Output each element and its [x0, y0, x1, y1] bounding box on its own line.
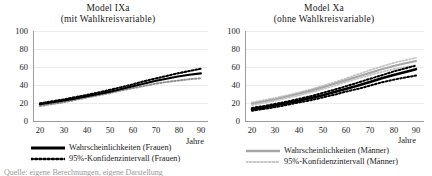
legend-item-wahrscheinlichkeiten-maenner[interactable]: Wahrscheinlichkeiten (Männer) [246, 146, 398, 156]
panel-title-right: Model Xa (ohne Wahlkreisvariable) [216, 3, 432, 25]
legend-label-konfidenzintervall-frauen: 95%-Konfidenzintervall (Frauen) [69, 154, 180, 164]
series-ci-lower-frauen [40, 78, 201, 106]
ytick-label-80-left: 80 [0, 45, 28, 54]
legend-left: Wahrscheinlichkeiten (Frauen) 95%-Konfid… [31, 143, 180, 165]
ytick-label-0-right: 0 [216, 117, 240, 126]
ytick-label-60-left: 60 [0, 63, 28, 72]
panel-model-xa: Model Xa (ohne Wahlkreisvariable) 100 80… [216, 0, 432, 176]
legend-item-konfidenzintervall-maenner[interactable]: 95%-Konfidenzintervall (Männer) [246, 157, 398, 167]
figure-two-panel-line-charts: Model IXa (mit Wahlkreisvariable) 100 80… [0, 0, 432, 176]
xtick-label-80-left: 80 [167, 126, 191, 135]
xtick-label-40-left: 40 [75, 126, 99, 135]
ytick-label-60-right: 60 [216, 63, 240, 72]
plot-area-right [245, 31, 424, 122]
ytick-label-100-right: 100 [216, 27, 240, 36]
x-axis-unit-left: Jahre [186, 137, 204, 146]
legend-right: Wahrscheinlichkeiten (Männer) 95%-Konfid… [246, 146, 398, 168]
legend-label-wahrscheinlichkeiten-frauen: Wahrscheinlichkeiten (Frauen) [69, 143, 171, 153]
legend-key-solid-grey-maenner [246, 147, 280, 155]
ytick-label-40-right: 40 [216, 81, 240, 90]
xtick-label-40-right: 40 [287, 126, 311, 135]
ytick-label-20-right: 20 [216, 99, 240, 108]
xtick-label-20-right: 20 [240, 126, 264, 135]
xtick-label-60-right: 60 [334, 126, 358, 135]
panel-title-left-line2: (mit Wahlkreisvariable) [0, 14, 216, 25]
gridlines-left [33, 32, 208, 104]
panel-title-right-line1: Model Xa [304, 3, 344, 13]
legend-key-dotted-grey-maenner [246, 158, 280, 166]
xtick-label-30-left: 30 [52, 126, 76, 135]
panel-model-ixa: Model IXa (mit Wahlkreisvariable) 100 80… [0, 0, 216, 176]
ytick-label-40-left: 40 [0, 81, 28, 90]
xtick-label-90-left: 90 [189, 126, 213, 135]
ytick-label-80-right: 80 [216, 45, 240, 54]
ytick-label-100-left: 100 [0, 27, 28, 36]
legend-item-konfidenzintervall-frauen[interactable]: 95%-Konfidenzintervall (Frauen) [31, 154, 180, 164]
plot-svg-left [33, 31, 208, 122]
ytick-label-20-left: 20 [0, 99, 28, 108]
plot-area-left [33, 31, 208, 122]
xtick-label-80-right: 80 [382, 126, 406, 135]
series-ci-upper-black [252, 66, 416, 108]
x-axis-unit-right: Jahre [398, 136, 416, 145]
legend-key-solid-black-frauen [31, 144, 65, 152]
figure-caption-partial: Quelle: eigene Berechnungen, eigene Dars… [4, 168, 428, 176]
plot-svg-right [245, 31, 424, 122]
xtick-label-70-left: 70 [144, 126, 168, 135]
legend-label-konfidenzintervall-maenner: 95%-Konfidenzintervall (Männer) [284, 157, 398, 167]
ytick-label-0-left: 0 [0, 117, 28, 126]
xtick-label-20-left: 20 [28, 126, 52, 135]
xtick-label-50-left: 50 [98, 126, 122, 135]
panel-title-left-line1: Model IXa [86, 3, 129, 13]
xtick-label-90-right: 90 [404, 126, 428, 135]
xtick-label-50-right: 50 [311, 126, 335, 135]
xtick-label-30-right: 30 [263, 126, 287, 135]
xtick-label-60-left: 60 [121, 126, 145, 135]
panel-title-right-line2: (ohne Wahlkreisvariable) [216, 14, 432, 25]
panel-title-left: Model IXa (mit Wahlkreisvariable) [0, 3, 216, 25]
legend-key-dotted-black-frauen [31, 155, 65, 163]
legend-item-wahrscheinlichkeiten-frauen[interactable]: Wahrscheinlichkeiten (Frauen) [31, 143, 180, 153]
legend-label-wahrscheinlichkeiten-maenner: Wahrscheinlichkeiten (Männer) [284, 146, 389, 156]
xtick-label-70-right: 70 [358, 126, 382, 135]
